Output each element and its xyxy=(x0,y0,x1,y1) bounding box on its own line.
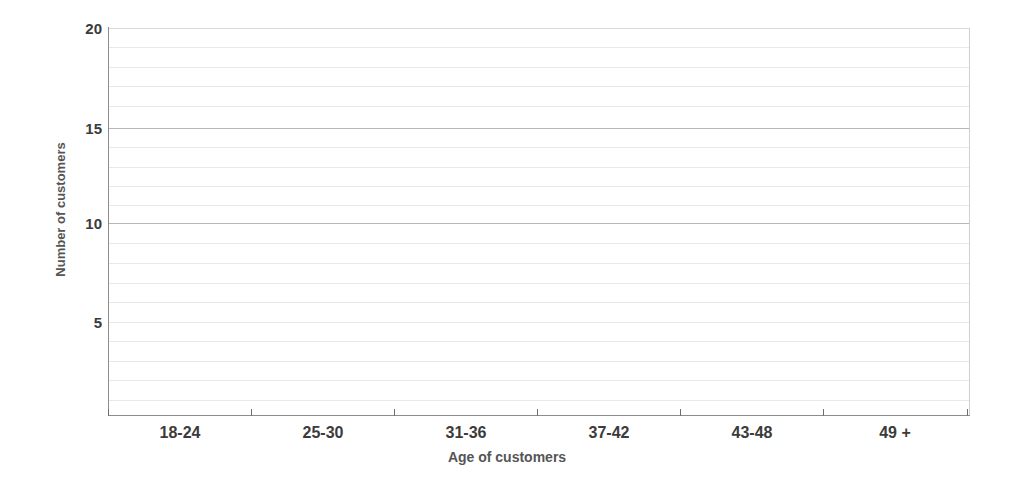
y-axis-title: Number of customers xyxy=(53,110,68,310)
x-tick-3 xyxy=(537,409,538,416)
x-tick-4 xyxy=(680,409,681,416)
gridline-13 xyxy=(109,167,970,168)
gridline-4 xyxy=(109,341,970,342)
gridline-1 xyxy=(109,400,970,401)
x-tick-0 xyxy=(108,409,109,416)
x-tick-label-18-24: 18-24 xyxy=(120,424,240,442)
gridline-15 xyxy=(109,128,970,129)
plot-area xyxy=(109,28,970,415)
x-tick-6 xyxy=(967,409,968,416)
gridline-20 xyxy=(109,28,970,29)
gridline-17 xyxy=(109,86,970,87)
x-axis-line xyxy=(108,415,970,416)
x-tick-label-43-48: 43-48 xyxy=(692,424,812,442)
x-tick-2 xyxy=(394,409,395,416)
gridline-8 xyxy=(109,263,970,264)
gridline-2 xyxy=(109,380,970,381)
gridline-3 xyxy=(109,361,970,362)
plot-right-border xyxy=(969,28,970,416)
x-tick-1 xyxy=(251,409,252,416)
gridline-12 xyxy=(109,186,970,187)
x-tick-5 xyxy=(823,409,824,416)
x-tick-label-49-plus: 49 + xyxy=(835,424,955,442)
x-tick-label-25-30: 25-30 xyxy=(263,424,383,442)
gridline-16 xyxy=(109,106,970,107)
chart-canvas: 20 15 10 5 18-24 25-30 31-36 37-42 43-48… xyxy=(0,0,1014,484)
gridline-14 xyxy=(109,147,970,148)
y-axis-line xyxy=(108,27,109,416)
x-tick-label-31-36: 31-36 xyxy=(406,424,526,442)
gridline-6 xyxy=(109,302,970,303)
y-tick-label-5: 5 xyxy=(56,315,102,330)
gridline-10 xyxy=(109,223,970,224)
x-axis-title: Age of customers xyxy=(0,449,1014,465)
gridline-7 xyxy=(109,283,970,284)
gridline-18 xyxy=(109,67,970,68)
gridline-11 xyxy=(109,205,970,206)
x-tick-label-37-42: 37-42 xyxy=(549,424,669,442)
gridline-19 xyxy=(109,47,970,48)
gridline-9 xyxy=(109,243,970,244)
gridline-5 xyxy=(109,322,970,323)
y-tick-label-20: 20 xyxy=(56,21,102,36)
